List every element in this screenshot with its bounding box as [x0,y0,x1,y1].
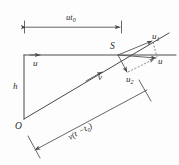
u-left-arrow-group: u [30,55,40,68]
figure-container: ut0 h u v S u1 u [0,0,179,165]
dashed-closure-u2-to-u [128,59,154,72]
vector-decomposition-group: u1 u u2 [118,31,163,85]
u-left-label: u [33,58,38,68]
vector-diagram-svg: ut0 h u v S u1 u [0,0,179,165]
bottom-dimension-arrow-line [35,90,147,150]
u2-sub: 2 [131,79,134,85]
component-u2-label: u2 [126,74,134,85]
bottom-dimension-label: v(t0−t0) [66,121,94,143]
station-point-label: S [110,41,115,51]
height-label: h [13,81,18,91]
top-dim-sub: 0 [73,17,76,23]
v-label: v [98,72,102,82]
bottom-dimension-group: v(t0−t0) [28,80,151,158]
u1-sub: 1 [157,36,160,42]
top-dimension-label: ut0 [66,12,76,23]
origin-point-label: O [15,121,22,131]
bottom-dimension-left-tick [28,136,40,158]
slant-velocity-line [24,33,169,119]
top-dimension-group: ut0 [25,12,122,33]
component-u2-arrow [118,55,127,72]
component-u1-label: u1 [152,31,160,42]
component-u-right-label: u [158,56,163,66]
bottom-dimension-right-tick [139,80,151,101]
